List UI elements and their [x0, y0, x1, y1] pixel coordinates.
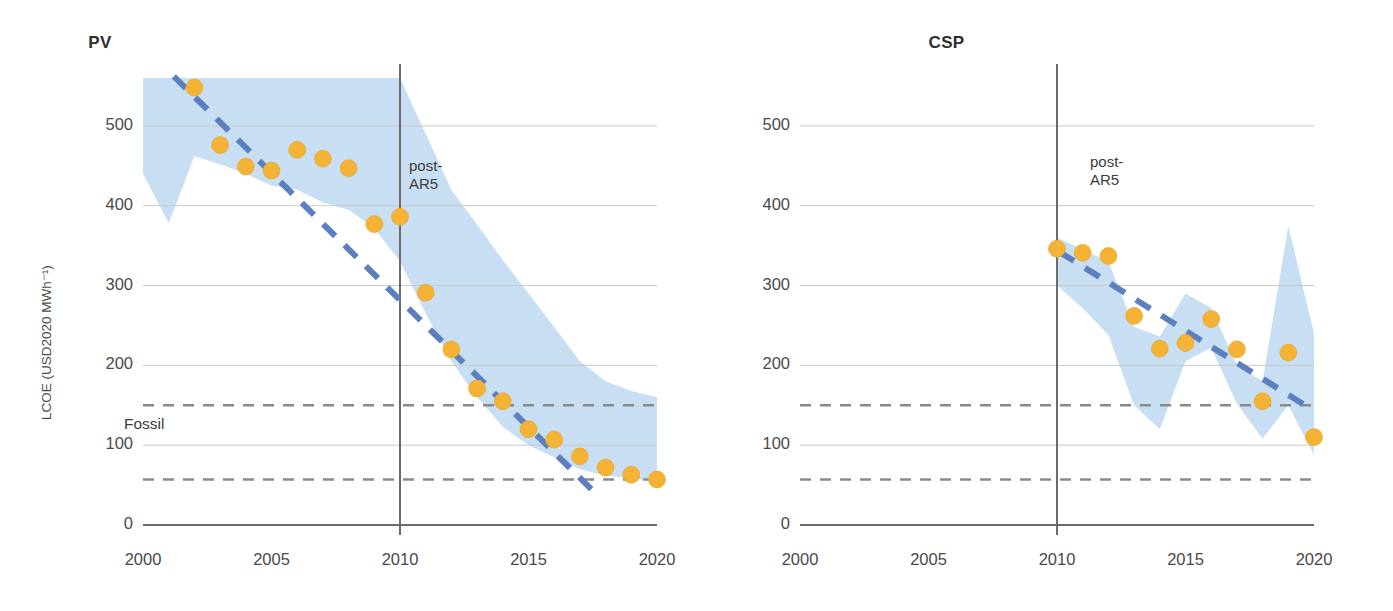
figure-root: PV LCOE (USD2020 MWh⁻¹) Fossil post- AR5…: [0, 0, 1393, 611]
data-point: [1203, 311, 1220, 328]
x-tick-label: 2000: [108, 550, 178, 569]
data-point: [1177, 335, 1194, 352]
data-point: [1100, 248, 1117, 265]
data-point: [392, 208, 409, 225]
y-tick-label: 100: [744, 434, 790, 453]
data-point: [1074, 244, 1091, 261]
chart-panel-pv: PV LCOE (USD2020 MWh⁻¹) Fossil post- AR5…: [0, 0, 700, 611]
y-tick-label: 300: [744, 275, 790, 294]
data-point: [520, 421, 537, 438]
data-point: [366, 216, 383, 233]
data-point: [417, 284, 434, 301]
data-point: [494, 393, 511, 410]
x-tick-label: 2005: [237, 550, 307, 569]
data-point: [572, 448, 589, 465]
x-tick-label: 2000: [765, 550, 835, 569]
data-point: [1126, 307, 1143, 324]
data-point: [212, 137, 229, 154]
data-point: [340, 160, 357, 177]
post-ar5-annotation: post- AR5: [1090, 153, 1123, 188]
fossil-label: Fossil: [124, 415, 164, 433]
x-tick-label: 2010: [1022, 550, 1092, 569]
data-point: [1280, 344, 1297, 361]
post-ar5-annotation: post- AR5: [409, 157, 442, 192]
data-point: [1306, 429, 1323, 446]
data-point: [649, 471, 666, 488]
data-point: [623, 466, 640, 483]
data-point: [237, 158, 254, 175]
x-tick-label: 2015: [1151, 550, 1221, 569]
x-tick-label: 2020: [1279, 550, 1349, 569]
data-point: [1151, 340, 1168, 357]
y-tick-label: 200: [744, 354, 790, 373]
data-point: [1049, 240, 1066, 257]
y-tick-label: 300: [87, 275, 133, 294]
y-tick-label: 400: [744, 195, 790, 214]
chart-panel-csp: CSP post- AR5 01002003004005002000200520…: [700, 0, 1393, 611]
y-tick-label: 500: [87, 115, 133, 134]
y-tick-label: 0: [87, 514, 133, 533]
x-tick-label: 2010: [365, 550, 435, 569]
x-tick-label: 2015: [494, 550, 564, 569]
data-point: [186, 79, 203, 96]
y-tick-label: 400: [87, 195, 133, 214]
data-point: [1229, 341, 1246, 358]
y-tick-label: 200: [87, 354, 133, 373]
data-point: [546, 431, 563, 448]
y-tick-label: 0: [744, 514, 790, 533]
plot-area-csp: [700, 0, 1393, 611]
data-point: [1254, 393, 1271, 410]
data-point: [289, 141, 306, 158]
data-point: [597, 459, 614, 476]
y-tick-label: 500: [744, 115, 790, 134]
y-tick-label: 100: [87, 434, 133, 453]
x-tick-label: 2020: [622, 550, 692, 569]
data-point: [263, 162, 280, 179]
data-point: [315, 150, 332, 167]
x-tick-label: 2005: [894, 550, 964, 569]
data-point: [443, 341, 460, 358]
data-point: [469, 380, 486, 397]
